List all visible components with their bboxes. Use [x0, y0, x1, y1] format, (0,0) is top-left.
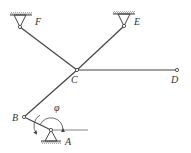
link-fc	[20, 27, 77, 70]
label-a: A	[64, 136, 72, 147]
label-phi: φ	[54, 102, 60, 113]
ground-support-a	[41, 130, 61, 144]
joint-c	[75, 68, 78, 71]
label-e: E	[133, 16, 140, 27]
joint-d	[175, 68, 178, 71]
label-b: B	[12, 112, 18, 123]
label-c: C	[71, 74, 78, 85]
mechanism-diagram: F E C D B A φ	[0, 0, 191, 153]
joint-f	[18, 25, 21, 28]
joint-a	[49, 128, 52, 131]
ground-support-e	[113, 11, 135, 26]
joints	[18, 24, 178, 131]
link-ab-crank	[24, 117, 51, 130]
ground-support-f	[10, 12, 32, 27]
label-d: D	[170, 74, 179, 85]
link-ec	[77, 26, 124, 70]
joint-b	[22, 115, 25, 118]
link-bc	[24, 70, 77, 117]
joint-e	[122, 24, 125, 27]
label-f: F	[34, 16, 42, 27]
